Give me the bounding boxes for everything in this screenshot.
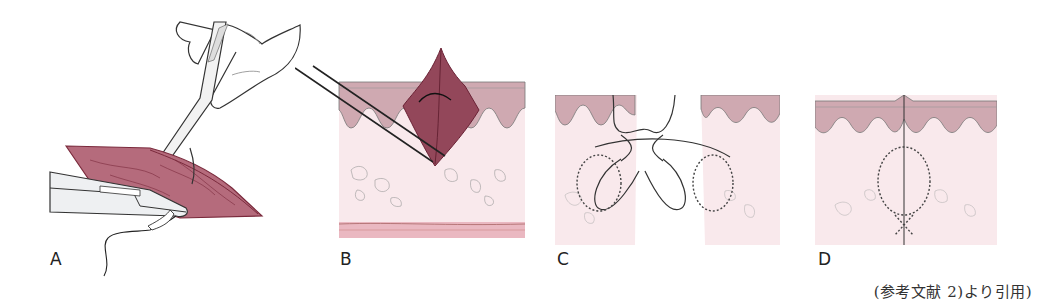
panel-c-illustration (555, 95, 780, 245)
panel-a-illustration (0, 0, 320, 290)
suture-loop-cross-section (555, 95, 780, 245)
panel-label-d: D (818, 249, 831, 269)
tissue-eversion-cross-section (295, 30, 535, 260)
panel-label-c: C (557, 249, 569, 269)
figure-caption: (参考文献 2)より引用) (874, 280, 1032, 301)
panel-d-illustration (815, 95, 997, 245)
panel-label-b: B (340, 249, 352, 269)
panel-b-illustration (295, 30, 535, 260)
panel-label-a: A (50, 249, 62, 269)
forceps-suturing-illustration (0, 0, 320, 290)
closed-wound-cross-section (815, 95, 997, 245)
